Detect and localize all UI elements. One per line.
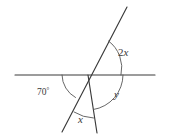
geometry-diagram: 70° 2x y x	[0, 0, 169, 138]
geometry-canvas: 70° 2x y x	[0, 0, 169, 138]
label-y: y	[113, 88, 119, 100]
arc-x	[74, 112, 94, 118]
label-x: x	[77, 113, 83, 125]
label-2x-variable: x	[123, 46, 129, 58]
label-2x: 2x	[118, 46, 129, 58]
arc-70-degrees	[62, 75, 76, 98]
label-70-value: 70	[37, 87, 47, 97]
degree-symbol-icon: °	[47, 86, 50, 94]
label-70-degrees: 70°	[37, 86, 50, 97]
near-vertical-ray	[88, 75, 97, 133]
